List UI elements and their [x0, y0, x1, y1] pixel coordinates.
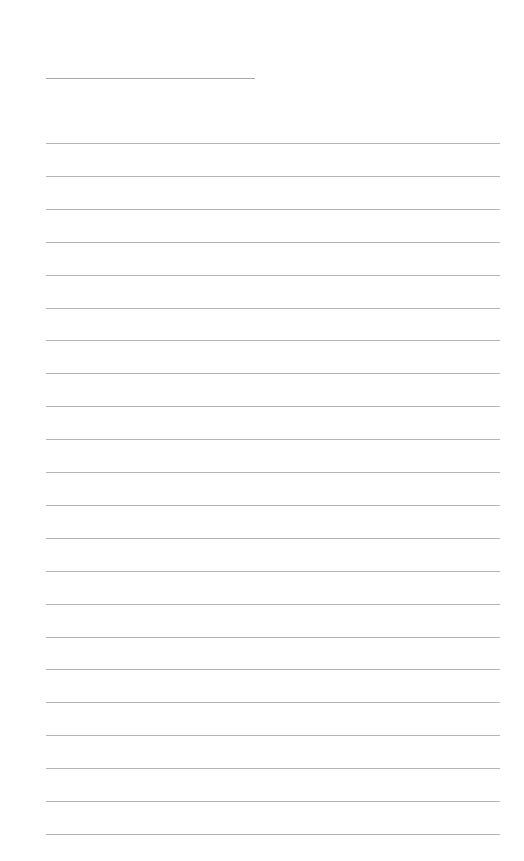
ruled-line [46, 176, 500, 177]
ruled-line [46, 669, 500, 670]
ruled-line [46, 571, 500, 572]
ruled-line [46, 308, 500, 309]
ruled-line [46, 340, 500, 341]
ruled-line [46, 768, 500, 769]
ruled-line [46, 834, 500, 835]
ruled-line [46, 373, 500, 374]
ruled-line [46, 439, 500, 440]
title-line [46, 78, 255, 79]
ruled-line [46, 275, 500, 276]
ruled-line [46, 472, 500, 473]
ruled-line [46, 406, 500, 407]
ruled-line [46, 242, 500, 243]
ruled-line [46, 604, 500, 605]
ruled-line [46, 505, 500, 506]
ruled-line [46, 801, 500, 802]
ruled-line [46, 637, 500, 638]
ruled-line [46, 143, 500, 144]
ruled-line [46, 538, 500, 539]
ruled-line [46, 735, 500, 736]
ruled-line [46, 702, 500, 703]
ruled-line [46, 209, 500, 210]
